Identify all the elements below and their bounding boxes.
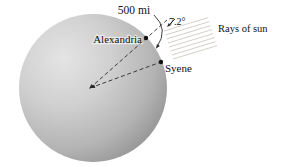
distance-leader-arrowhead xyxy=(156,44,160,49)
rays-of-sun-label: Rays of sun xyxy=(218,23,268,34)
alexandria-dot xyxy=(144,36,148,40)
angle-label: 7.2° xyxy=(169,16,186,27)
syene-dot xyxy=(159,60,163,64)
figure-canvas: 500 mi Alexandria 7.2° Rays of sun Syene xyxy=(0,0,291,167)
eratosthenes-diagram: 500 mi Alexandria 7.2° Rays of sun Syene xyxy=(0,0,291,167)
alexandria-label: Alexandria xyxy=(93,33,142,45)
distance-label: 500 mi xyxy=(118,4,150,16)
distance-leader-arrow xyxy=(154,15,162,47)
syene-label: Syene xyxy=(165,62,192,74)
